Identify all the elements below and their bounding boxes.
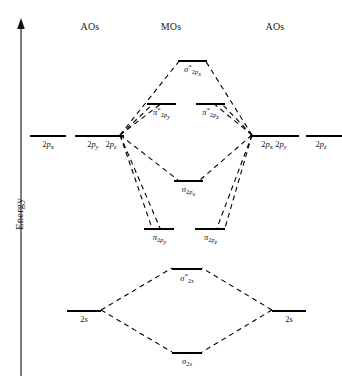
level-bar-ao-right-2pz (306, 135, 342, 137)
level-bar-ao-left-2px (30, 135, 66, 137)
energy-axis-label: Energy (14, 198, 25, 230)
correlation-lines-left-2p (120, 60, 180, 228)
level-label-ao-left-2px: 2px (30, 139, 66, 150)
level-label-ao-left-2s: 2s (67, 314, 101, 324)
level-bar-mo-pi-star-2py (147, 103, 176, 105)
column-header-aos-left: AOs (60, 21, 120, 32)
level-label-mo-pi-star-2pz: π*2pz (188, 106, 233, 120)
level-label-mo-sigma-star-2px: σ*2px (170, 63, 215, 77)
level-bar-mo-pi-2pz (195, 228, 225, 230)
level-bar-ao-left-2s (67, 310, 101, 312)
level-label-ao-right-2py: 2py (263, 139, 299, 150)
level-label-mo-sigma-star-2s: σ*2s (167, 272, 207, 284)
level-bar-mo-sigma-star-2px (178, 60, 207, 62)
level-label-mo-pi-2pz: π2pz (188, 232, 233, 245)
level-bar-ao-left-2pz (97, 135, 124, 137)
level-bar-mo-sigma-2s (172, 352, 202, 354)
level-bar-mo-sigma-star-2s (172, 268, 202, 270)
column-header-mos: MOs (141, 21, 201, 32)
mo-diagram-canvas: AOs MOs AOs (0, 0, 342, 391)
column-header-aos-right: AOs (245, 21, 305, 32)
correlation-lines-right-2p (200, 60, 252, 228)
level-bar-mo-sigma-2px (174, 180, 203, 182)
level-label-ao-right-2s: 2s (272, 314, 306, 324)
level-bar-mo-pi-star-2pz (196, 103, 225, 105)
energy-axis (17, 18, 25, 376)
level-label-mo-pi-2py: π2py (137, 232, 182, 245)
level-label-mo-sigma-2px: σ2px (166, 184, 211, 197)
level-label-ao-left-2pz: 2pz (93, 139, 129, 150)
level-label-mo-sigma-2s: σ2s (167, 356, 207, 367)
level-label-ao-right-2pz: 2pz (303, 139, 339, 150)
level-bar-ao-right-2py (263, 135, 299, 137)
level-bar-mo-pi-2py (144, 228, 174, 230)
level-label-mo-pi-star-2py: π*2py (139, 106, 184, 120)
level-bar-ao-right-2s (272, 310, 306, 312)
